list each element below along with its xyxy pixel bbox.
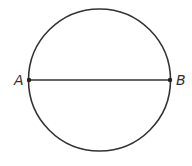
point-a bbox=[27, 78, 31, 82]
circle-diagram: A B bbox=[0, 0, 192, 166]
label-b: B bbox=[176, 72, 186, 88]
point-b bbox=[168, 78, 172, 82]
label-a: A bbox=[13, 72, 24, 88]
